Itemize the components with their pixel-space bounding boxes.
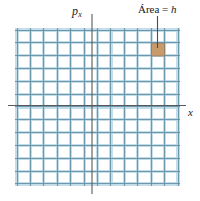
area-annotation-variable: h: [171, 3, 177, 15]
area-annotation: Área = h: [138, 4, 177, 15]
phase-space-diagram: px Área = h x: [0, 0, 200, 201]
position-axis-label: x: [188, 107, 193, 118]
area-annotation-text: Área =: [138, 3, 171, 15]
diagram-canvas: [0, 0, 200, 201]
momentum-axis-label-subscript: x: [78, 10, 82, 19]
momentum-axis-label: px: [72, 5, 82, 19]
